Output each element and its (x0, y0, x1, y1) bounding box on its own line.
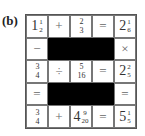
grid-cell: − (26, 38, 48, 61)
operator-symbol: ÷ (55, 63, 62, 79)
grid-cell: × (114, 38, 136, 61)
numerator: 1 (127, 18, 131, 26)
numerator: 3 (36, 108, 40, 117)
operator-symbol: = (121, 86, 128, 102)
denominator: 6 (127, 26, 131, 34)
whole-part: 2 (119, 18, 126, 34)
fraction: 23 (79, 17, 84, 35)
grid-cell: 515 (114, 105, 136, 128)
grid-cell: 34 (26, 60, 48, 83)
operator-symbol: + (55, 18, 62, 34)
blocked-cell (70, 38, 92, 61)
mixed-number: 4920 (74, 109, 89, 125)
fraction: 34 (35, 62, 40, 80)
grid-cell: = (92, 105, 114, 128)
blocked-cell (92, 38, 114, 61)
numerator: 5 (80, 62, 84, 71)
numerator: 2 (80, 17, 84, 26)
grid-cell: ÷ (48, 60, 70, 83)
grid-cell: = (114, 83, 136, 106)
operator-symbol: = (99, 18, 106, 34)
numerator: 3 (36, 62, 40, 71)
grid-cell: 112 (26, 15, 48, 38)
whole-part: 2 (119, 63, 126, 79)
blocked-cell (70, 83, 92, 106)
operator-symbol: + (55, 109, 62, 125)
blocked-cell (48, 38, 70, 61)
numerator: 1 (39, 18, 43, 26)
numerator: 9 (83, 109, 87, 117)
grid-cell: = (92, 15, 114, 38)
grid-cell: 516 (70, 60, 92, 83)
fraction: 34 (35, 108, 40, 126)
operator-symbol: − (33, 41, 40, 57)
grid-cell: 216 (114, 15, 136, 38)
denominator: 5 (127, 71, 131, 79)
mixed-number: 112 (31, 18, 43, 34)
fraction: 516 (77, 62, 86, 80)
grid-cell: = (92, 60, 114, 83)
operator-symbol: = (33, 86, 40, 102)
mixed-number: 216 (119, 18, 131, 34)
denominator: 5 (127, 117, 131, 125)
whole-part: 1 (31, 18, 38, 34)
blocked-cell (92, 83, 114, 106)
mixed-number: 515 (119, 109, 131, 125)
grid-cell: 4920 (70, 105, 92, 128)
grid-cell: = (26, 83, 48, 106)
figure-label: (b) (2, 13, 18, 29)
grid-cell: 23 (70, 15, 92, 38)
grid-cell: 34 (26, 105, 48, 128)
grid-cell: 225 (114, 60, 136, 83)
whole-part: 5 (119, 109, 126, 125)
grid-cell: + (48, 15, 70, 38)
operator-symbol: = (99, 109, 106, 125)
numerator: 1 (127, 109, 131, 117)
numerator: 2 (127, 63, 131, 71)
denominator: 4 (36, 117, 40, 126)
blocked-cell (48, 83, 70, 106)
denominator: 3 (80, 26, 84, 35)
denominator: 2 (39, 26, 43, 34)
denominator: 16 (78, 71, 86, 80)
fraction-puzzle-grid: 112+23=216−×34÷516=225==34+4920=515 (25, 14, 137, 129)
denominator: 4 (36, 71, 40, 80)
whole-part: 4 (74, 109, 81, 125)
operator-symbol: = (99, 63, 106, 79)
mixed-number: 225 (119, 63, 131, 79)
operator-symbol: × (121, 41, 128, 57)
grid-cell: + (48, 105, 70, 128)
denominator: 20 (82, 117, 89, 125)
